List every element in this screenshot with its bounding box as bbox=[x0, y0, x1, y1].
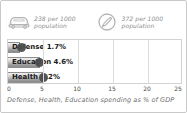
chart-tick-label: 25 bbox=[174, 85, 182, 92]
bar-chart: Defense 1.7%Education 4.6%Health 5.2% 05… bbox=[7, 39, 182, 87]
chart-bar-label: Health 5.2% bbox=[12, 72, 60, 83]
chart-caption: Defense, Health, Education spending as %… bbox=[7, 96, 183, 104]
chart-tick-label: 20 bbox=[143, 85, 151, 92]
chart-bars: Defense 1.7%Education 4.6%Health 5.2% bbox=[8, 40, 181, 83]
chart-x-axis: 0510152025 bbox=[7, 84, 182, 94]
chart-gridline bbox=[43, 40, 44, 83]
chart-bar-row[interactable]: Education 4.6% bbox=[8, 57, 40, 68]
chart-plot-area: Defense 1.7%Education 4.6%Health 5.2% bbox=[7, 39, 182, 84]
telephone-circle-icon bbox=[95, 11, 119, 33]
stat-vehicles-label: 238 per 1000 population bbox=[31, 15, 76, 30]
stat-telephones: 372 per 1000 population bbox=[95, 11, 183, 33]
chart-gridline bbox=[148, 40, 149, 83]
chart-tick-label: 0 bbox=[7, 85, 11, 92]
chart-bar-marker bbox=[17, 43, 26, 52]
chart-bar-row[interactable]: Health 5.2% bbox=[8, 72, 44, 83]
chart-tick-label: 10 bbox=[73, 85, 81, 92]
stat-telephones-label: 372 per 1000 population bbox=[119, 15, 164, 30]
stat-vehicles: 238 per 1000 population bbox=[7, 11, 95, 33]
chart-gridline bbox=[113, 40, 114, 83]
chart-gridline bbox=[78, 40, 79, 83]
chart-bar-row[interactable]: Defense 1.7% bbox=[8, 42, 20, 53]
stats-row: 238 per 1000 population 372 per 1000 pop… bbox=[7, 9, 182, 35]
chart-tick-label: 15 bbox=[108, 85, 116, 92]
car-icon bbox=[7, 11, 31, 33]
infographic-panel: 238 per 1000 population 372 per 1000 pop… bbox=[0, 0, 187, 113]
chart-tick-label: 5 bbox=[40, 85, 44, 92]
